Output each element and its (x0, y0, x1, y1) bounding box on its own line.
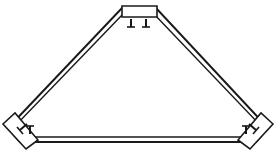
technical-drawing-svg (0, 0, 276, 163)
apex-tick-group (127, 19, 150, 27)
triangle-outer-outline (8, 8, 268, 142)
figure-canvas (0, 0, 276, 163)
triangle-inner-outline (15, 13, 261, 137)
apex-mounting-tab (122, 6, 157, 17)
